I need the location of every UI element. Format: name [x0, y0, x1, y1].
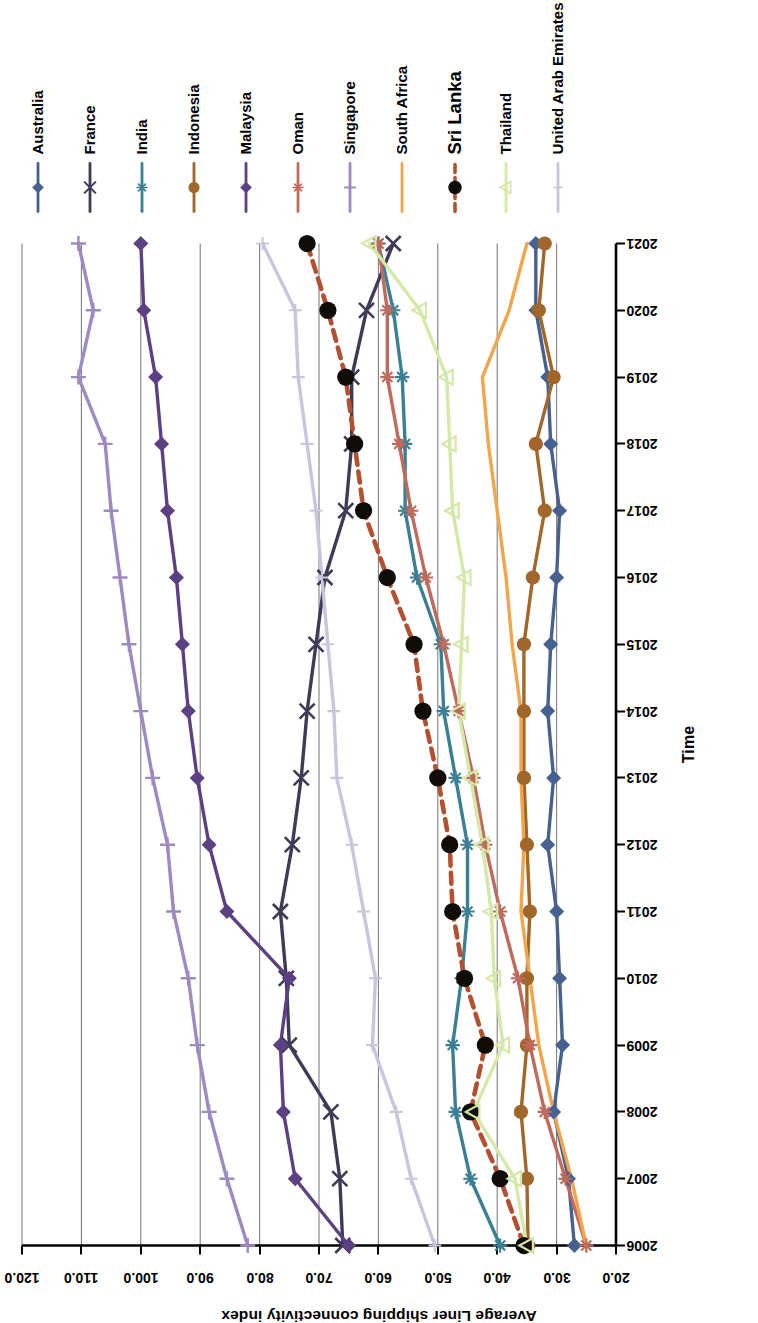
data-point — [355, 502, 372, 519]
data-point — [136, 181, 147, 192]
time-tick-mark — [616, 643, 625, 645]
legend-label: India — [134, 119, 149, 154]
data-point — [169, 570, 184, 585]
data-point — [202, 1104, 217, 1119]
data-point — [202, 837, 217, 852]
legend-item-sri-lanka[interactable]: Sri Lanka — [446, 71, 465, 213]
data-point — [86, 302, 101, 317]
data-point — [104, 503, 119, 518]
legend-swatch-circle-icon — [187, 161, 201, 213]
time-tick-2008: 2008 — [619, 1103, 665, 1119]
data-point — [240, 1238, 255, 1253]
data-point — [386, 236, 401, 251]
data-point — [460, 904, 474, 918]
data-point — [327, 704, 340, 717]
time-tick-mark — [616, 1110, 625, 1112]
data-point — [546, 770, 561, 785]
data-point — [543, 436, 558, 451]
legend-label: South Africa — [394, 65, 409, 154]
time-tick-mark — [616, 309, 625, 311]
data-point — [346, 435, 363, 452]
data-point — [71, 236, 86, 251]
time-tick-mark — [616, 843, 625, 845]
legend-item-france[interactable]: France — [82, 105, 97, 213]
data-point — [148, 369, 163, 384]
legend-item-south-africa[interactable]: South Africa — [394, 65, 409, 213]
data-point — [549, 570, 564, 585]
value-tick-100: 100.0 — [113, 1269, 169, 1285]
legend-item-oman[interactable]: Oman — [290, 111, 305, 213]
legend-item-australia[interactable]: Australia — [30, 90, 45, 213]
data-point — [345, 838, 358, 851]
data-point — [310, 504, 323, 517]
data-point — [446, 1037, 460, 1051]
data-point — [181, 703, 196, 718]
data-point — [493, 1238, 507, 1252]
data-point — [514, 1104, 528, 1118]
value-tick-70: 70.0 — [291, 1269, 347, 1285]
legend-label: Australia — [30, 90, 45, 154]
time-tick-mark — [616, 509, 625, 511]
value-tick-60: 60.0 — [350, 1269, 406, 1285]
series-line-malaysia — [141, 243, 349, 1245]
data-point — [166, 904, 181, 919]
data-point — [444, 902, 461, 919]
legend-item-india[interactable]: India — [134, 119, 149, 213]
data-point — [160, 837, 175, 852]
data-point — [154, 436, 169, 451]
time-tick-2014: 2014 — [619, 703, 665, 719]
data-point — [136, 302, 151, 317]
data-point — [292, 181, 303, 192]
data-point — [552, 970, 567, 985]
data-point — [448, 770, 462, 784]
legend-item-indonesia[interactable]: Indonesia — [186, 84, 201, 213]
legend-swatch-diamond-icon — [31, 161, 45, 213]
time-tick-mark — [616, 776, 625, 778]
data-point — [520, 837, 534, 851]
data-point — [538, 1104, 552, 1118]
time-tick-2009: 2009 — [619, 1037, 665, 1053]
data-point — [71, 369, 86, 384]
time-axis-title: Time — [680, 243, 698, 1245]
data-point — [414, 702, 431, 719]
data-point — [357, 905, 370, 918]
plot-svg — [22, 243, 616, 1245]
time-tick-mark — [616, 1177, 625, 1179]
data-point — [405, 635, 422, 652]
legend-item-united-arab-emirates[interactable]: United Arab Emirates — [550, 2, 565, 213]
data-point — [319, 301, 336, 318]
data-point — [538, 503, 552, 517]
data-point — [322, 637, 335, 650]
data-point — [529, 436, 543, 450]
data-point — [330, 771, 343, 784]
data-point — [160, 503, 175, 518]
data-point — [460, 837, 474, 851]
data-point — [113, 570, 128, 585]
value-tick-20: 20.0 — [588, 1269, 644, 1285]
legend-label: United Arab Emirates — [550, 2, 565, 154]
data-point — [292, 370, 305, 383]
time-tick-2021: 2021 — [619, 235, 665, 251]
plot-area — [22, 243, 616, 1245]
data-point — [463, 1171, 477, 1185]
data-point — [289, 303, 302, 316]
chart-figure: Average Liner shipping connectivity inde… — [0, 0, 758, 1323]
legend-swatch-x-icon — [83, 161, 97, 213]
legend-label: Malaysia — [238, 91, 253, 154]
time-tick-2010: 2010 — [619, 970, 665, 986]
legend-swatch-none-icon — [395, 161, 409, 213]
time-tick-2011: 2011 — [619, 903, 665, 919]
data-point — [395, 369, 409, 383]
legend-item-singapore[interactable]: Singapore — [342, 81, 357, 213]
data-point — [429, 769, 446, 786]
legend-label: France — [82, 105, 97, 154]
series-line-sri-lanka — [307, 243, 524, 1245]
data-point — [456, 969, 473, 986]
legend-item-malaysia[interactable]: Malaysia — [238, 91, 253, 213]
legend-swatch-asterisk-icon — [135, 161, 149, 213]
data-point — [538, 236, 552, 250]
data-point — [121, 636, 136, 651]
data-point — [98, 436, 113, 451]
data-point — [379, 568, 396, 585]
legend-item-thailand[interactable]: Thailand — [498, 92, 513, 213]
